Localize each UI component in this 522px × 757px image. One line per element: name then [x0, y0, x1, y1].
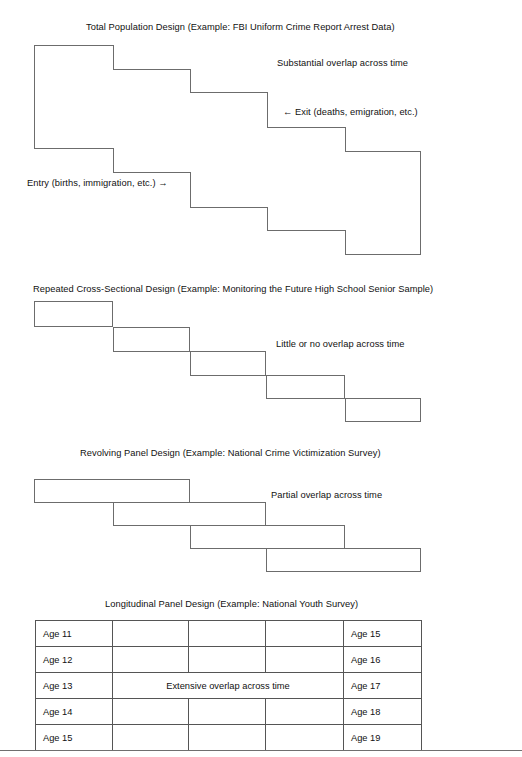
revolving-box-1	[34, 479, 190, 503]
table-row: Age 14 Age 18	[36, 699, 422, 725]
cell-age-last: Age 17	[344, 673, 422, 699]
panel-caption-revolving-panel: Revolving Panel Design (Example: Nationa…	[80, 447, 381, 459]
repeated-box-1	[34, 301, 113, 327]
cell-age-first: Age 13	[36, 673, 113, 699]
cell-blank	[189, 699, 266, 725]
note-little-or-no-overlap: Little or no overlap across time	[276, 338, 405, 350]
cell-age-last: Age 18	[344, 699, 422, 725]
cell-age-first: Age 14	[36, 699, 113, 725]
panel-caption-repeated-cross-sectional: Repeated Cross-Sectional Design (Example…	[33, 283, 433, 295]
label-exit: ← Exit (deaths, emigration, etc.)	[283, 106, 418, 118]
cell-age-first: Age 11	[36, 621, 113, 647]
figure-page: Total Population Design (Example: FBI Un…	[0, 0, 522, 757]
repeated-box-4	[266, 375, 345, 399]
longitudinal-panel-table: Age 11 Age 15 Age 12 Age 16 Age 13 Exten…	[35, 620, 422, 751]
panel-caption-total-population: Total Population Design (Example: FBI Un…	[86, 21, 395, 33]
note-partial-overlap: Partial overlap across time	[271, 489, 382, 501]
cell-age-last: Age 16	[344, 647, 422, 673]
cell-blank	[266, 699, 344, 725]
repeated-box-2	[113, 327, 190, 352]
table-row: Age 13 Extensive overlap across time Age…	[36, 673, 422, 699]
cell-extensive-overlap-note: Extensive overlap across time	[113, 673, 344, 699]
cell-blank	[189, 725, 266, 751]
cell-blank	[113, 699, 189, 725]
cell-blank	[189, 647, 266, 673]
cell-age-first: Age 15	[36, 725, 113, 751]
revolving-box-2	[113, 502, 266, 526]
revolving-box-3	[190, 525, 345, 549]
cell-blank	[113, 647, 189, 673]
cell-blank	[113, 621, 189, 647]
cell-blank	[266, 647, 344, 673]
cell-blank	[266, 725, 344, 751]
repeated-box-3	[190, 351, 266, 376]
cell-blank	[266, 621, 344, 647]
table-row: Age 12 Age 16	[36, 647, 422, 673]
revolving-box-4	[266, 548, 421, 572]
cell-age-last: Age 19	[344, 725, 422, 751]
cell-age-first: Age 12	[36, 647, 113, 673]
cell-age-last: Age 15	[344, 621, 422, 647]
cell-blank	[113, 725, 189, 751]
repeated-box-5	[345, 398, 421, 422]
label-entry: Entry (births, immigration, etc.) →	[27, 177, 168, 189]
cell-blank	[189, 621, 266, 647]
note-substantial-overlap: Substantial overlap across time	[277, 57, 408, 69]
footer-divider	[0, 750, 522, 751]
table-row: Age 11 Age 15	[36, 621, 422, 647]
panel-caption-longitudinal-panel: Longitudinal Panel Design (Example: Nati…	[105, 598, 358, 610]
table-row: Age 15 Age 19	[36, 725, 422, 751]
